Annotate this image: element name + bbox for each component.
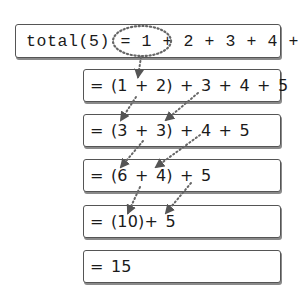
step-1-text: = (1 + 2) + 3 + 4 + 5 [84, 76, 288, 95]
step-5-box: = 15 [83, 250, 281, 283]
step-0-text: total(5) = 1 + 2 + 3 + 4 + 5 [16, 32, 298, 51]
step-4-box: = (10)+ 5 [83, 205, 281, 238]
step-0-box: total(5) = 1 + 2 + 3 + 4 + 5 [15, 24, 281, 58]
step-3-box: = (6 + 4) + 5 [83, 159, 281, 192]
step-2-box: = (3 + 3) + 4 + 5 [83, 114, 281, 147]
step-1-box: = (1 + 2) + 3 + 4 + 5 [83, 69, 281, 102]
step-5-text: = 15 [84, 257, 132, 276]
step-3-text: = (6 + 4) + 5 [84, 166, 211, 185]
step-4-text: = (10)+ 5 [84, 212, 176, 231]
step-2-text: = (3 + 3) + 4 + 5 [84, 121, 250, 140]
